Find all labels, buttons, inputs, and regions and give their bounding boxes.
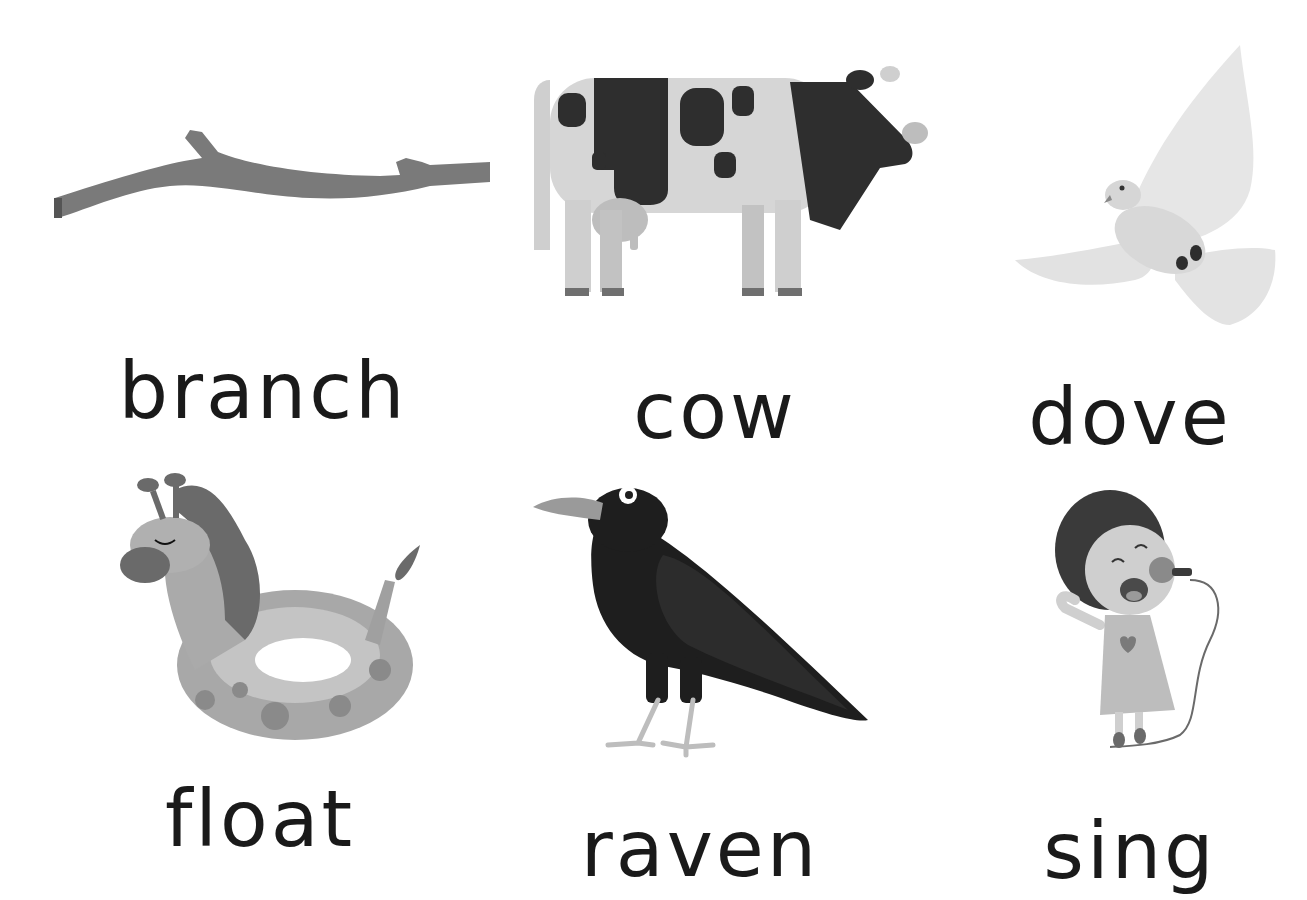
card-raven: raven <box>500 450 950 900</box>
card-sing: sing <box>950 450 1307 900</box>
word-label: sing <box>1025 812 1235 890</box>
dove-icon <box>1010 40 1280 330</box>
card-dove: dove <box>950 0 1307 450</box>
word-label: cow <box>595 372 835 450</box>
card-branch: branch <box>0 0 500 450</box>
cow-icon <box>520 60 930 305</box>
word-label: branch <box>118 352 408 430</box>
branch-icon <box>50 120 495 230</box>
word-label: float <box>150 780 370 858</box>
girl-singing-icon <box>1050 490 1240 755</box>
giraffe-float-icon <box>115 470 425 750</box>
card-float: float <box>0 450 500 900</box>
card-cow: cow <box>500 0 950 450</box>
word-label: raven <box>580 810 820 888</box>
word-label: dove <box>1020 378 1240 456</box>
raven-icon <box>528 475 873 760</box>
